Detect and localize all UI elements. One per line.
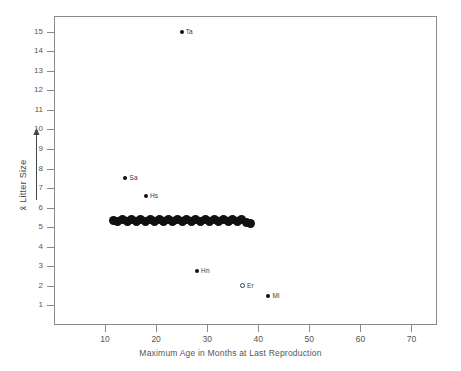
x-axis-tick-label: 60 [340,335,380,344]
x-axis-tick-label: 50 [289,335,329,344]
y-axis-tick [47,188,54,189]
x-axis-tick [207,325,208,332]
x-axis-tick [360,325,361,332]
y-axis-tick-label: 12 [13,86,43,94]
y-axis-tick [47,305,54,306]
x-axis-title: Maximum Age in Months at Last Reproducti… [0,348,461,358]
y-axis-tick [47,208,54,209]
data-point-label: Ta [186,28,193,35]
x-axis-tick [105,325,106,332]
data-point-label: Hn [201,267,210,274]
data-point-cluster [246,219,255,228]
y-axis-tick [47,32,54,33]
data-point [144,194,148,198]
y-axis-tick [47,227,54,228]
y-axis-tick-label: 15 [13,28,43,36]
data-point-label: Sa [129,174,137,181]
y-axis-tick [47,90,54,91]
y-axis-tick [47,247,54,248]
x-axis-tick [258,325,259,332]
y-axis-tick-label: 4 [13,243,43,251]
y-axis-tick-label: 11 [13,106,43,114]
y-axis-tick-label: 6 [13,204,43,212]
y-axis-tick [47,110,54,111]
y-axis-tick-label: 8 [13,165,43,173]
y-axis-tick-label: 5 [13,223,43,231]
x-axis-tick-label: 10 [85,335,125,344]
y-axis-tick-label: 10 [13,125,43,133]
x-axis-tick-label: 20 [136,335,176,344]
scatter-plot-figure: x̄ Litter Size Maximum Age in Months at … [0,0,461,371]
x-axis-tick [411,325,412,332]
y-axis-tick [47,169,54,170]
y-axis-tick-label: 13 [13,67,43,75]
plot-area [54,16,437,325]
y-axis-tick-label: 2 [13,282,43,290]
x-axis-tick-label: 40 [238,335,278,344]
x-axis-tick [156,325,157,332]
data-point-label: Hs [150,192,158,199]
y-axis-tick [47,286,54,287]
y-axis-tick-label: 7 [13,184,43,192]
data-point-label: Ml [272,292,279,299]
y-axis-tick [47,71,54,72]
x-axis-tick-label: 70 [391,335,431,344]
x-axis-tick-label: 30 [187,335,227,344]
y-axis-tick-label: 9 [13,145,43,153]
y-axis-tick-label: 14 [13,47,43,55]
y-axis-tick [47,149,54,150]
y-axis-tick-label: 1 [13,301,43,309]
data-point [180,30,184,34]
y-axis-tick [47,129,54,130]
y-axis-tick [47,51,54,52]
x-axis-tick [309,325,310,332]
data-point-label: Er [247,282,254,289]
y-axis-tick-label: 3 [13,262,43,270]
y-axis-tick [47,266,54,267]
